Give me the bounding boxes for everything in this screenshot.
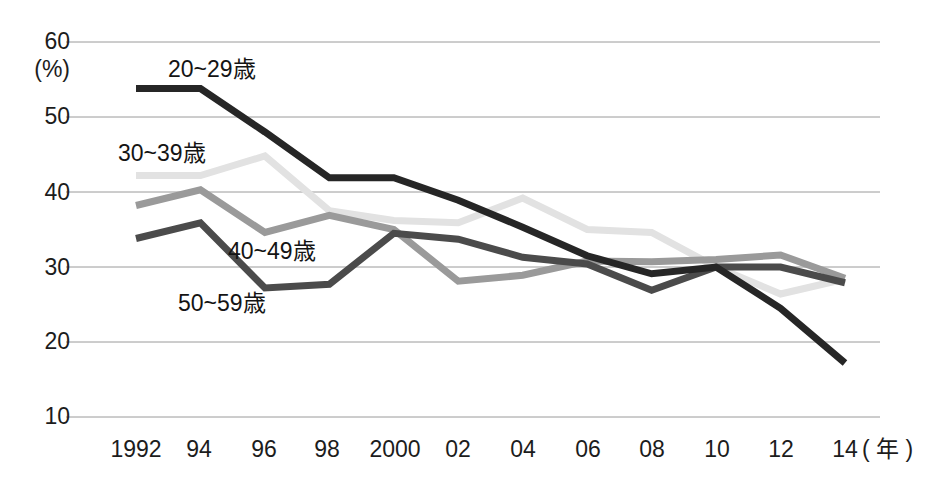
chart-container: 60 (%) 50 40 30 20 10 1992 94 96 98 2000… <box>0 0 941 493</box>
series-label-50-59: 50~59歳 <box>178 292 266 315</box>
ytick-label-30: 30 <box>10 256 70 279</box>
xtick-label-04: 04 <box>510 438 536 461</box>
ytick-label-60: 60 <box>10 30 70 53</box>
xtick-label-98: 98 <box>314 438 340 461</box>
series-label-40-49: 40~49歳 <box>228 240 316 263</box>
xtick-label-2000: 2000 <box>369 438 420 461</box>
xtick-label-10: 10 <box>704 438 730 461</box>
series-line-30~39歳 <box>136 156 845 294</box>
series-label-30-39: 30~39歳 <box>118 142 206 165</box>
xtick-label-96: 96 <box>251 438 277 461</box>
series-line-20~29歳 <box>136 89 845 364</box>
ytick-label-50: 50 <box>10 105 70 128</box>
line-chart-plot <box>0 0 941 493</box>
series-lines-group <box>136 89 845 364</box>
xtick-label-94: 94 <box>186 438 212 461</box>
y-axis-unit-label: (%) <box>10 58 70 81</box>
ytick-label-20: 20 <box>10 330 70 353</box>
x-axis-unit-label: ( 年 ) <box>862 438 913 461</box>
xtick-label-1992: 1992 <box>110 438 161 461</box>
ytick-label-10: 10 <box>10 405 70 428</box>
xtick-label-12: 12 <box>768 438 794 461</box>
xtick-label-06: 06 <box>575 438 601 461</box>
xtick-label-14: 14 <box>832 438 858 461</box>
xtick-label-02: 02 <box>445 438 471 461</box>
series-label-20-29: 20~29歳 <box>168 58 256 81</box>
xtick-label-08: 08 <box>639 438 665 461</box>
ytick-label-40: 40 <box>10 181 70 204</box>
gridlines-group <box>66 42 880 417</box>
